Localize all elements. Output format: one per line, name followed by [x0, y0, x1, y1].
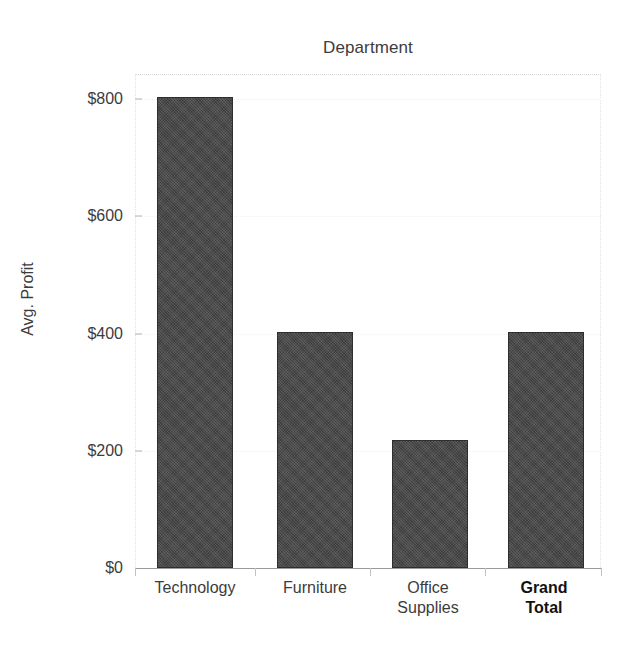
bar-chart: Department Avg. Profit $800 $600 $400 $2…: [0, 0, 630, 659]
y-tick-label-200: $200: [43, 442, 123, 460]
x-tick-separator: [370, 568, 371, 576]
y-tick-label-0: $0: [43, 559, 123, 577]
page-title: Department: [135, 38, 601, 58]
x-tick-separator: [135, 568, 136, 576]
x-tick-label-line1: Technology: [125, 578, 265, 598]
y-tick-mark: [135, 451, 142, 452]
bar-technology[interactable]: [157, 97, 233, 568]
y-tick-mark: [135, 216, 142, 217]
y-tick-label-400: $400: [43, 325, 123, 343]
x-tick-separator: [485, 568, 486, 576]
bar-furniture[interactable]: [277, 332, 353, 568]
y-tick-label-600: $600: [43, 207, 123, 225]
bar-office-supplies[interactable]: [392, 440, 468, 568]
x-tick-separator: [255, 568, 256, 576]
y-tick-label-800: $800: [43, 90, 123, 108]
y-tick-mark: [135, 99, 142, 100]
y-tick-mark: [135, 334, 142, 335]
x-tick-separator: [601, 568, 602, 576]
y-axis-title: Avg. Profit: [19, 209, 37, 389]
bar-grand-total[interactable]: [508, 332, 584, 568]
x-tick-label-line1: Grand: [476, 578, 612, 598]
x-tick-label-line2: Total: [476, 598, 612, 618]
x-tick-label-technology: Technology: [125, 578, 265, 598]
x-tick-label-grand-total: Grand Total: [476, 578, 612, 618]
x-axis-line: [135, 568, 602, 569]
